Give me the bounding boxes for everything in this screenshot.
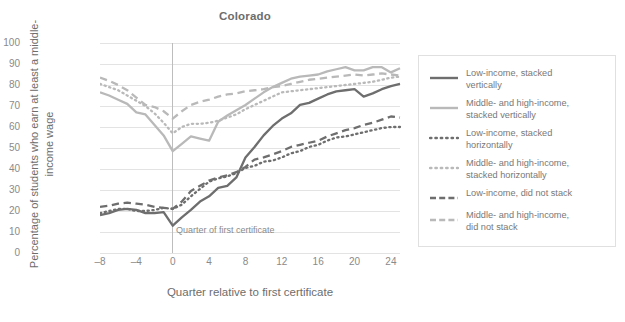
chart-title: Colorado bbox=[180, 10, 310, 22]
series-line-5 bbox=[100, 73, 400, 118]
legend-swatch-icon bbox=[429, 211, 459, 225]
legend-label: Low-income, did not stack bbox=[466, 188, 572, 200]
x-tick-label: 16 bbox=[298, 256, 338, 267]
y-tick-label: 30 bbox=[0, 184, 20, 195]
series-lines bbox=[100, 43, 402, 255]
legend-swatch-icon bbox=[429, 189, 459, 203]
legend-label: Low-income, stackedvertically bbox=[466, 68, 552, 91]
legend-item-2[interactable]: Low-income, stackedhorizontally bbox=[429, 128, 607, 151]
y-tick-label: 10 bbox=[0, 226, 20, 237]
x-tick-label: 8 bbox=[225, 256, 265, 267]
legend-item-4[interactable]: Low-income, did not stack bbox=[429, 188, 607, 203]
legend-label: Middle- and high-income,stacked horizont… bbox=[466, 158, 569, 181]
y-tick-label: 20 bbox=[0, 205, 20, 216]
y-tick-label: 0 bbox=[0, 247, 20, 258]
y-tick-label: 60 bbox=[0, 121, 20, 132]
x-tick-label: 0 bbox=[153, 256, 193, 267]
chart-container: Colorado Percentage of students who earn… bbox=[0, 0, 625, 322]
x-tick-label: 12 bbox=[262, 256, 302, 267]
x-tick-label: –4 bbox=[116, 256, 156, 267]
legend-item-3[interactable]: Middle- and high-income,stacked horizont… bbox=[429, 158, 607, 181]
y-axis-label: Percentage of students who earn at least… bbox=[27, 14, 57, 274]
series-line-4 bbox=[100, 117, 400, 209]
legend-label: Middle- and high-income,did not stack bbox=[466, 210, 569, 233]
chart-legend: Low-income, stackedverticallyMiddle- and… bbox=[418, 55, 616, 247]
y-tick-label: 70 bbox=[0, 100, 20, 111]
plot-area: Quarter of first certificate bbox=[100, 43, 400, 253]
x-tick-label: 4 bbox=[189, 256, 229, 267]
series-line-2 bbox=[100, 127, 400, 213]
legend-item-0[interactable]: Low-income, stackedvertically bbox=[429, 68, 607, 91]
legend-item-1[interactable]: Middle- and high-income,stacked vertical… bbox=[429, 98, 607, 121]
x-axis-label: Quarter relative to first certificate bbox=[100, 286, 400, 298]
x-tick-label: 20 bbox=[335, 256, 375, 267]
legend-swatch-icon bbox=[429, 159, 459, 173]
legend-swatch-icon bbox=[429, 69, 459, 83]
y-tick-label: 50 bbox=[0, 142, 20, 153]
legend-label: Middle- and high-income,stacked vertical… bbox=[466, 98, 569, 121]
legend-swatch-icon bbox=[429, 129, 459, 143]
legend-item-5[interactable]: Middle- and high-income,did not stack bbox=[429, 210, 607, 233]
y-tick-label: 100 bbox=[0, 37, 20, 48]
x-tick-label: 24 bbox=[371, 256, 411, 267]
legend-swatch-icon bbox=[429, 99, 459, 113]
x-tick-label: –8 bbox=[80, 256, 120, 267]
legend-label: Low-income, stackedhorizontally bbox=[466, 128, 552, 151]
series-line-1 bbox=[100, 67, 400, 151]
y-tick-label: 90 bbox=[0, 58, 20, 69]
y-tick-label: 40 bbox=[0, 163, 20, 174]
y-tick-label: 80 bbox=[0, 79, 20, 90]
